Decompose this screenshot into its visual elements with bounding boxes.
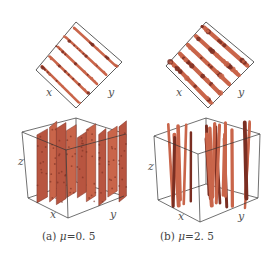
particle <box>61 201 63 203</box>
particle <box>188 46 192 50</box>
particle <box>42 161 44 163</box>
particle <box>215 70 219 74</box>
particle <box>95 47 97 49</box>
particle <box>37 145 39 147</box>
particle <box>82 150 84 152</box>
particle <box>82 177 84 179</box>
particle <box>229 66 232 69</box>
particle <box>91 43 94 46</box>
particle <box>51 129 53 131</box>
caption-b: (b) μ=2. 5 <box>160 230 214 242</box>
particle-structure <box>37 121 127 206</box>
particle <box>108 164 110 166</box>
particle <box>224 61 230 67</box>
particle <box>70 188 72 190</box>
particle <box>108 161 110 163</box>
top-view-y-label: y <box>108 86 114 99</box>
particle <box>222 43 226 47</box>
particle <box>63 182 65 184</box>
particle <box>124 150 126 152</box>
particle <box>72 78 74 80</box>
particle <box>84 54 87 57</box>
particle <box>90 77 93 80</box>
particle <box>82 143 84 145</box>
particle-sheet <box>86 124 95 202</box>
particle <box>70 136 72 138</box>
cube-edge <box>200 198 258 222</box>
particle <box>210 49 215 54</box>
particle <box>63 35 66 38</box>
particle <box>205 96 210 101</box>
particle <box>44 69 46 71</box>
particle <box>175 66 177 68</box>
particle <box>91 195 93 197</box>
particle <box>51 197 53 199</box>
particle <box>81 155 83 157</box>
particle <box>79 50 80 51</box>
particle <box>98 152 100 154</box>
panel-b: x y z x y (b) μ=2. 5 <box>136 0 272 261</box>
particle <box>94 63 97 66</box>
particle <box>201 25 204 28</box>
particle-sheet <box>56 123 66 205</box>
particle <box>50 57 53 60</box>
particle <box>50 173 52 175</box>
particle <box>40 65 43 68</box>
particle <box>54 157 56 159</box>
particle <box>111 187 113 189</box>
particle <box>121 179 123 181</box>
particle <box>218 90 223 95</box>
caption-value: =2. 5 <box>185 230 214 242</box>
particle <box>81 146 83 148</box>
particle <box>59 83 62 86</box>
particle <box>114 64 116 66</box>
particle <box>125 143 127 145</box>
particle <box>87 129 89 131</box>
particle <box>58 65 61 68</box>
top-view-y-label: y <box>238 86 244 99</box>
particle <box>69 192 71 194</box>
cube-edge <box>198 154 200 222</box>
particle <box>91 133 93 135</box>
particle <box>87 74 89 76</box>
particle-column <box>173 137 174 206</box>
particle <box>200 74 205 79</box>
particle <box>40 162 42 164</box>
panel-a-graphics <box>0 0 136 261</box>
particle <box>72 156 74 158</box>
particle <box>64 53 66 55</box>
cube-y-label: y <box>110 208 116 221</box>
particle-column <box>245 122 247 198</box>
cube-edge <box>76 118 126 134</box>
particle <box>124 132 126 134</box>
panel-a: x y z x y (a) μ=0. 5 <box>0 0 136 261</box>
particle <box>47 71 49 73</box>
particle <box>53 147 55 149</box>
particle <box>41 151 43 153</box>
particle <box>105 55 108 58</box>
panel-b-graphics <box>136 0 273 261</box>
particle <box>59 153 61 155</box>
particle <box>71 165 73 167</box>
particle <box>196 37 200 41</box>
particle <box>56 80 58 82</box>
particle <box>111 146 113 148</box>
particle <box>211 84 214 87</box>
particle <box>68 39 71 42</box>
particle <box>183 58 188 63</box>
particle <box>88 197 90 199</box>
caption-value: =0. 5 <box>67 230 96 242</box>
particle <box>59 140 61 142</box>
particle <box>113 159 115 161</box>
particle <box>70 94 72 96</box>
particle <box>45 173 47 175</box>
particle <box>68 74 70 76</box>
particle <box>102 53 104 55</box>
particle <box>189 63 194 68</box>
caption-label: (a) <box>42 230 60 242</box>
particle-sheet <box>66 125 76 198</box>
particle <box>120 155 122 157</box>
particle <box>200 57 203 60</box>
particle <box>50 181 52 183</box>
particle <box>217 39 221 43</box>
